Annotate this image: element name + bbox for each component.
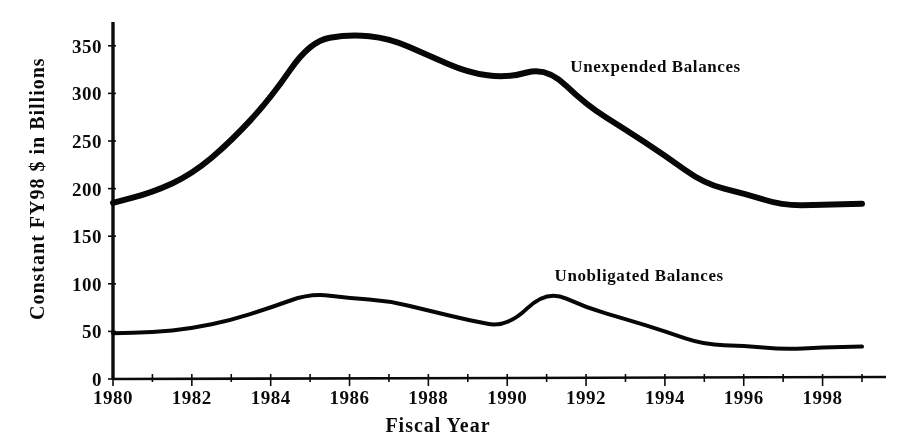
x-tick-label: 1994 — [645, 387, 685, 408]
x-tick-label: 1984 — [251, 387, 291, 408]
line-chart: 050100150200250300350 198019821984198619… — [0, 0, 911, 444]
series-label-unobligated: Unobligated Balances — [555, 266, 724, 285]
y-tick-label: 250 — [72, 131, 102, 152]
chart-container: 050100150200250300350 198019821984198619… — [0, 0, 911, 444]
series-line-unexpended — [113, 36, 862, 206]
y-tick-label: 200 — [72, 179, 102, 200]
y-tick-label: 350 — [72, 36, 102, 57]
y-tick-label: 150 — [72, 226, 102, 247]
x-axis-tick-labels: 1980198219841986198819901992199419961998 — [93, 387, 843, 408]
series-label-unexpended: Unexpended Balances — [570, 57, 741, 76]
x-axis-line — [113, 377, 886, 379]
y-tick-label: 50 — [82, 321, 102, 342]
x-tick-label: 1996 — [724, 387, 764, 408]
x-tick-label: 1988 — [408, 387, 448, 408]
x-tick-label: 1986 — [330, 387, 370, 408]
x-axis-title: Fiscal Year — [385, 414, 490, 436]
x-tick-label: 1990 — [487, 387, 527, 408]
series-group — [113, 36, 862, 349]
y-tick-label: 100 — [72, 274, 102, 295]
x-tick-label: 1992 — [566, 387, 606, 408]
x-tick-label: 1982 — [172, 387, 212, 408]
x-tick-label: 1980 — [93, 387, 133, 408]
y-tick-label: 300 — [72, 83, 102, 104]
series-line-unobligated — [113, 295, 862, 349]
x-tick-label: 1998 — [803, 387, 843, 408]
y-axis-tick-labels: 050100150200250300350 — [72, 36, 102, 390]
y-axis-title: Constant FY98 $ in Billions — [26, 57, 48, 320]
